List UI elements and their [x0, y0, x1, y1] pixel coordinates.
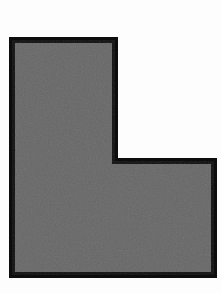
l-shape-svg — [0, 0, 221, 294]
figure-canvas: A solid gray L-shaped hexagonal block ou… — [0, 0, 221, 294]
